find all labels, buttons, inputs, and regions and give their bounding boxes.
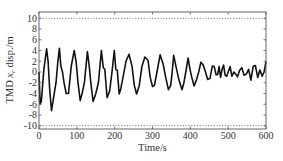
x-tick-label: 300 <box>145 130 160 141</box>
y-tick-label: 10 <box>27 13 37 24</box>
tmd-displacement-chart: 1086420-2-4-6-8-10 0100200300400500600 T… <box>0 0 283 161</box>
x-tick-label: 200 <box>107 130 122 141</box>
x-axis-title: Time/s <box>138 142 167 153</box>
x-tick-label: 600 <box>259 130 274 141</box>
y-axis-title-suffix: disp./m <box>4 36 15 70</box>
y-tick-label: 2 <box>32 56 37 67</box>
y-tick-label: 4 <box>32 45 37 56</box>
y-tick-label: -2 <box>29 77 37 88</box>
y-tick-label: 8 <box>32 23 37 34</box>
x-tick-label: 500 <box>221 130 236 141</box>
x-tick-label: 100 <box>69 130 84 141</box>
x-tick-label: 400 <box>183 130 198 141</box>
y-tick-label: 6 <box>32 34 37 45</box>
y-tick-label: 0 <box>32 66 37 77</box>
y-axis-title-prefix: TMD <box>4 78 15 104</box>
y-tick-label: -8 <box>29 109 37 120</box>
y-tick-label: -10 <box>24 120 37 131</box>
y-tick-label: -4 <box>29 88 37 99</box>
y-tick-label: -6 <box>29 99 37 110</box>
x-tick-label: 0 <box>37 130 42 141</box>
